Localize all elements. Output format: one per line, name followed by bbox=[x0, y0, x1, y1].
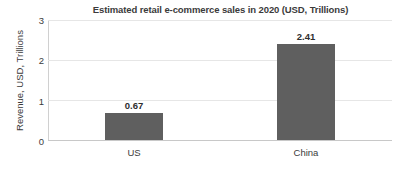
bar-chart: Estimated retail e-commerce sales in 202… bbox=[0, 0, 407, 170]
bar-value-label-us: 0.67 bbox=[105, 100, 163, 111]
bar-us[interactable] bbox=[105, 113, 163, 140]
bar-china[interactable] bbox=[277, 44, 335, 140]
y-tick-label-2: 2 bbox=[4, 55, 44, 66]
bar-value-label-china: 2.41 bbox=[277, 31, 335, 42]
y-tick-label-1: 1 bbox=[4, 95, 44, 106]
y-tick-label-3: 3 bbox=[4, 15, 44, 26]
gridline-3 bbox=[48, 20, 392, 21]
gridline-1 bbox=[48, 100, 392, 101]
y-tick-label-0: 0 bbox=[4, 136, 44, 147]
chart-title: Estimated retail e-commerce sales in 202… bbox=[48, 4, 393, 15]
x-tick-label-us: US bbox=[48, 147, 220, 158]
x-axis-line bbox=[48, 140, 392, 141]
plot-area bbox=[48, 20, 392, 140]
y-axis-ticks: 3 2 1 0 bbox=[0, 20, 44, 141]
x-tick-label-china: China bbox=[220, 147, 392, 158]
gridline-2 bbox=[48, 60, 392, 61]
